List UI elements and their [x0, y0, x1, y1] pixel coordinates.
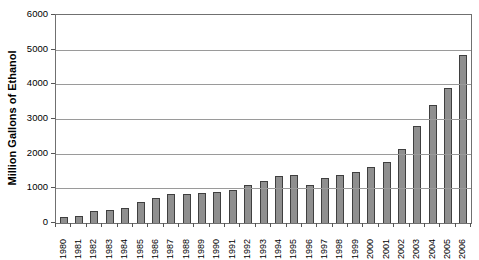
x-tick-mark: [455, 223, 456, 227]
bar-1987: [167, 194, 175, 223]
y-tick-label-3000: 3000: [16, 112, 48, 124]
y-tick-mark-5000: [51, 49, 55, 50]
x-tick-label-1981: 1981: [72, 233, 84, 259]
x-tick-mark: [347, 223, 348, 227]
y-tick-mark-6000: [51, 14, 55, 15]
x-tick-label-1990: 1990: [210, 233, 222, 259]
bar-2004: [429, 105, 437, 223]
x-tick-mark: [332, 223, 333, 227]
x-tick-mark: [255, 223, 256, 227]
gridline-3000: [56, 119, 471, 120]
x-tick-mark: [70, 223, 71, 227]
bar-1994: [275, 176, 283, 223]
x-tick-label-1992: 1992: [241, 233, 253, 259]
x-tick-mark: [147, 223, 148, 227]
y-tick-label-2000: 2000: [16, 147, 48, 159]
x-tick-label-1997: 1997: [318, 233, 330, 259]
x-tick-mark: [209, 223, 210, 227]
x-tick-label-1999: 1999: [349, 233, 361, 259]
x-tick-label-2000: 2000: [364, 233, 376, 259]
y-tick-label-6000: 6000: [16, 8, 48, 20]
bar-1990: [213, 192, 221, 223]
x-tick-mark: [163, 223, 164, 227]
x-tick-mark: [393, 223, 394, 227]
x-tick-label-1993: 1993: [257, 233, 269, 259]
bar-1988: [183, 194, 191, 223]
ethanol-bar-chart: Million Gallons of Ethanol 0100020003000…: [0, 0, 479, 260]
bar-1992: [244, 185, 252, 223]
bar-1991: [229, 190, 237, 223]
x-tick-label-1983: 1983: [103, 233, 115, 259]
x-tick-label-1989: 1989: [195, 233, 207, 259]
x-tick-mark: [316, 223, 317, 227]
x-tick-label-1994: 1994: [272, 233, 284, 259]
x-tick-mark: [86, 223, 87, 227]
x-tick-label-1998: 1998: [333, 233, 345, 259]
x-tick-label-1988: 1988: [180, 233, 192, 259]
x-tick-label-1986: 1986: [149, 233, 161, 259]
x-tick-mark: [301, 223, 302, 227]
bar-1989: [198, 193, 206, 223]
x-tick-mark: [101, 223, 102, 227]
x-tick-label-2006: 2006: [456, 233, 468, 259]
gridline-1000: [56, 188, 471, 189]
gridline-4000: [56, 84, 471, 85]
x-tick-label-2005: 2005: [441, 233, 453, 259]
y-tick-mark-3000: [51, 118, 55, 119]
bar-1999: [352, 172, 360, 223]
x-tick-mark: [378, 223, 379, 227]
x-tick-mark: [132, 223, 133, 227]
bar-1995: [290, 175, 298, 224]
y-tick-label-1000: 1000: [16, 181, 48, 193]
x-tick-mark: [424, 223, 425, 227]
bar-2003: [413, 126, 421, 223]
x-tick-mark: [362, 223, 363, 227]
bar-2005: [444, 88, 452, 223]
x-tick-mark: [224, 223, 225, 227]
x-tick-label-2004: 2004: [426, 233, 438, 259]
bar-1983: [106, 210, 114, 223]
gridline-2000: [56, 154, 471, 155]
x-tick-label-1984: 1984: [118, 233, 130, 259]
gridline-5000: [56, 50, 471, 51]
x-tick-mark: [193, 223, 194, 227]
x-tick-label-2002: 2002: [395, 233, 407, 259]
bar-1985: [137, 202, 145, 223]
x-tick-mark: [55, 223, 56, 227]
bar-1982: [90, 211, 98, 223]
y-tick-mark-1000: [51, 187, 55, 188]
plot-area: [55, 14, 472, 224]
bar-1984: [121, 208, 129, 223]
bar-1997: [321, 178, 329, 223]
x-tick-label-1995: 1995: [287, 233, 299, 259]
x-tick-mark: [409, 223, 410, 227]
bar-1998: [336, 175, 344, 224]
y-tick-label-5000: 5000: [16, 43, 48, 55]
x-tick-mark: [117, 223, 118, 227]
bar-1981: [75, 216, 83, 224]
x-tick-label-1987: 1987: [164, 233, 176, 259]
bar-1986: [152, 198, 160, 223]
y-tick-mark-4000: [51, 83, 55, 84]
bar-2002: [398, 149, 406, 223]
x-tick-mark: [178, 223, 179, 227]
x-tick-mark: [439, 223, 440, 227]
bar-2006: [459, 55, 467, 223]
bar-1980: [60, 217, 68, 223]
x-tick-label-2003: 2003: [410, 233, 422, 259]
x-tick-label-2001: 2001: [380, 233, 392, 259]
bar-2001: [383, 162, 391, 223]
x-tick-label-1991: 1991: [226, 233, 238, 259]
y-tick-mark-2000: [51, 153, 55, 154]
x-tick-mark: [470, 223, 471, 227]
x-tick-mark: [286, 223, 287, 227]
x-tick-mark: [239, 223, 240, 227]
x-tick-label-1982: 1982: [87, 233, 99, 259]
x-tick-label-1996: 1996: [303, 233, 315, 259]
x-tick-label-1980: 1980: [57, 233, 69, 259]
bar-2000: [367, 167, 375, 224]
x-tick-mark: [270, 223, 271, 227]
y-tick-label-4000: 4000: [16, 77, 48, 89]
bar-1996: [306, 185, 314, 223]
x-tick-label-1985: 1985: [134, 233, 146, 259]
